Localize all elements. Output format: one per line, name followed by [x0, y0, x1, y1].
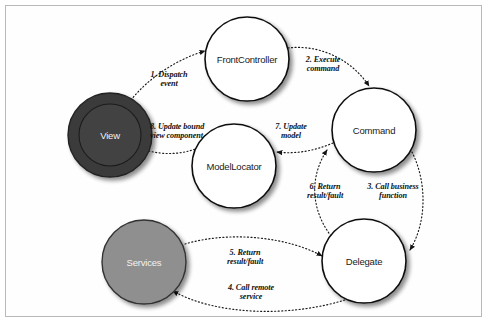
edge-6-return-result-fault — [315, 150, 331, 236]
node-view-inner-circle — [79, 104, 141, 166]
edge-2-execute-command — [288, 47, 369, 86]
node-frontcontroller[interactable] — [205, 17, 289, 101]
diagram-figure: FrontController Command ModelLocator Vie… — [0, 0, 489, 328]
edge-4-call-remote-service — [173, 291, 348, 311]
diagram-canvas — [0, 0, 489, 328]
node-services[interactable] — [102, 220, 186, 304]
node-delegate[interactable] — [322, 219, 406, 303]
node-command[interactable] — [332, 88, 416, 172]
edge-3-call-business-function — [410, 152, 423, 250]
node-modellocator[interactable] — [192, 124, 276, 208]
edge-5-return-result-fault — [185, 237, 322, 256]
edge-1-dispatch-event — [131, 51, 205, 100]
edge-7-update-model — [277, 143, 333, 153]
